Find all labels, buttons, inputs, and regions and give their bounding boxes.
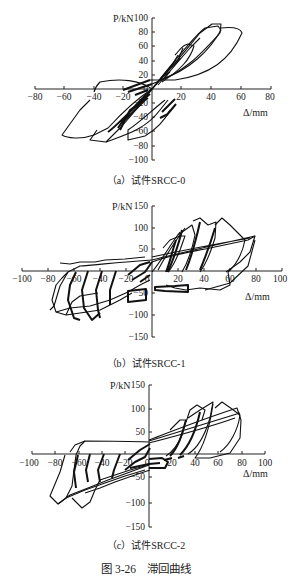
chart-c-xlabel: Δ/mm (243, 468, 268, 479)
chart-c-ylabel: P/kN (110, 380, 131, 391)
chart-c-xtick: 60 (213, 458, 223, 468)
chart-a-xlabel: Δ/mm (243, 107, 268, 118)
chart-b-ytick: 150 (134, 201, 149, 211)
chart-c-xtick: −100 (19, 458, 39, 468)
chart-c-xtick: −80 (48, 458, 63, 468)
chart-b-ytick: 100 (134, 223, 149, 233)
chart-c-ytick: 150 (131, 380, 146, 390)
chart-c-hysteresis-curves (50, 402, 241, 508)
chart-a-ytick: 20 (139, 70, 149, 80)
chart-b-caption: （b）试件SRCC-1 (0, 355, 292, 370)
chart-a-ylabel: P/kN (113, 13, 134, 24)
chart-b-ytick: −150 (128, 332, 148, 342)
chart-c: 150 100 50 −50 −100 −150 −100 −80 −60 −4… (19, 380, 272, 532)
chart-a-xtick: 60 (236, 92, 246, 102)
chart-a-xtick: 80 (265, 92, 275, 102)
chart-b-ytick: 50 (139, 244, 149, 254)
chart-b-ylabel: P/kN (112, 201, 133, 212)
chart-b-xtick: 20 (173, 274, 183, 284)
chart-c-xtick: 40 (190, 458, 200, 468)
chart-a-caption: （a）试件SRCC-0 (0, 172, 292, 187)
chart-a-ytick: −80 (133, 141, 148, 151)
chart-a: 100 80 60 40 20 0 −20 −40 −60 −80 −100 −… (28, 13, 275, 165)
figure-title: 图 3-26 滞回曲线 (0, 560, 292, 576)
chart-a-xtick: −60 (57, 92, 72, 102)
chart-b-xtick: 40 (199, 274, 209, 284)
figure-canvas: 100 80 60 40 20 0 −20 −40 −60 −80 −100 −… (0, 0, 292, 581)
chart-a-ytick: 100 (134, 13, 149, 23)
chart-a-xtick: 40 (206, 92, 216, 102)
chart-b-xtick: 100 (273, 274, 288, 284)
chart-b: 150 100 50 −50 −100 −150 −100 −80 −60 −4… (12, 201, 287, 342)
chart-c-ytick: 100 (131, 404, 146, 414)
chart-a-ytick: 40 (139, 56, 149, 66)
chart-c-caption: （c）试件SRCC-2 (0, 537, 292, 552)
chart-a-ytick: −100 (128, 155, 148, 165)
chart-c-ytick: −150 (125, 522, 145, 532)
chart-a-xtick: −80 (28, 92, 43, 102)
chart-c-xtick: 80 (237, 458, 247, 468)
chart-a-xtick: −20 (116, 92, 131, 102)
chart-b-xtick: 80 (251, 274, 261, 284)
chart-b-xtick: −20 (119, 274, 134, 284)
chart-a-ytick: 80 (139, 27, 149, 37)
chart-b-xtick: −80 (41, 274, 56, 284)
chart-c-xtick: 100 (258, 458, 273, 468)
chart-b-xlabel: Δ/mm (245, 291, 270, 302)
chart-b-xtick: −100 (12, 274, 32, 284)
chart-c-xtick: −60 (72, 458, 87, 468)
chart-c-ytick: 50 (136, 427, 146, 437)
chart-a-xtick: 20 (176, 92, 186, 102)
chart-c-ytick: −100 (125, 498, 145, 508)
chart-b-ytick: −100 (128, 310, 148, 320)
chart-a-ytick: 60 (139, 41, 149, 51)
